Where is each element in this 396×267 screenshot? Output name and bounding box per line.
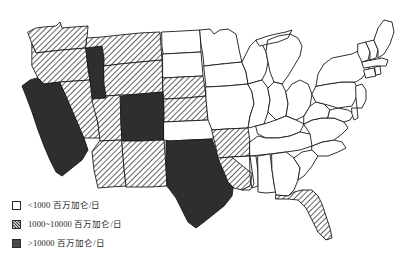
state-NJ <box>356 84 366 108</box>
state-WY <box>104 60 163 96</box>
state-DE <box>352 108 358 120</box>
state-CT <box>364 68 376 78</box>
state-NE <box>163 76 206 99</box>
state-RI <box>375 66 381 75</box>
state-ND <box>162 30 201 54</box>
state-IN <box>268 82 288 120</box>
legend-item-high: >10000 百万加仑/日 <box>12 234 187 252</box>
map-figure: <1000 百万加仑/日 1000~10000 百万加仑/日 >10000 百万… <box>0 0 396 267</box>
dark-swatch <box>12 239 21 248</box>
hatched-swatch <box>12 220 21 229</box>
state-CO <box>121 92 164 141</box>
state-FL <box>276 190 332 240</box>
map-legend: <1000 百万加仑/日 1000~10000 百万加仑/日 >10000 百万… <box>12 196 187 253</box>
legend-item-low: <1000 百万加仑/日 <box>12 196 187 214</box>
state-AZ <box>92 140 126 188</box>
state-NM <box>122 140 167 187</box>
legend-label-high: >10000 百万加仑/日 <box>28 238 105 248</box>
state-SD <box>163 52 203 78</box>
legend-label-mid: 1000~10000 百万加仑/日 <box>28 219 122 229</box>
legend-item-mid: 1000~10000 百万加仑/日 <box>12 215 187 233</box>
state-MO <box>206 84 254 130</box>
state-MN <box>200 29 242 66</box>
legend-label-low: <1000 百万加仑/日 <box>28 200 100 210</box>
state-IA <box>204 62 248 87</box>
state-AR <box>212 128 250 158</box>
white-swatch <box>12 201 21 210</box>
state-KS <box>164 96 208 122</box>
